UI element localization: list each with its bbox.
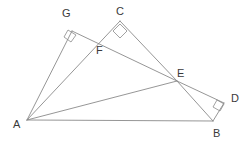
segment-DB <box>213 103 224 121</box>
segment-EB <box>177 81 213 121</box>
segment-CE <box>120 21 177 81</box>
segments-group <box>27 21 224 121</box>
vertex-label-A: A <box>13 119 20 130</box>
segment-AB <box>27 120 213 121</box>
vertex-label-F: F <box>96 45 103 56</box>
segment-GE <box>72 31 177 81</box>
geometry-diagram: A B C D E F G <box>0 0 249 145</box>
segment-AE <box>27 81 177 120</box>
vertex-label-D: D <box>231 93 239 104</box>
right-angle-marks-group <box>64 24 224 111</box>
diagram-canvas <box>0 0 249 145</box>
vertex-label-B: B <box>213 128 220 139</box>
vertex-label-G: G <box>62 8 71 19</box>
vertex-label-C: C <box>116 6 124 17</box>
segment-AG <box>27 31 72 120</box>
segment-AC <box>27 21 120 120</box>
vertex-label-E: E <box>177 68 184 79</box>
